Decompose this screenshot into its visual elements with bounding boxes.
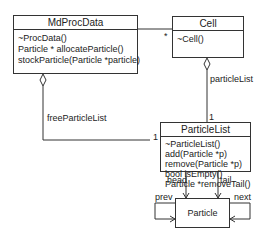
operation: add(Particle *p)	[165, 149, 246, 159]
multiplicity-one-top: 1	[209, 112, 214, 122]
role-prev: prev	[155, 192, 173, 202]
role-freeparticlelist: freeParticleList	[47, 113, 107, 123]
class-particlelist[interactable]: ParticleList ~ParticleList() add(Particl…	[160, 122, 251, 172]
operation: remove(Particle *p)	[165, 159, 246, 169]
class-cell[interactable]: Cell ~Cell()	[172, 16, 244, 58]
aggregation-diamond-icon	[204, 58, 210, 70]
class-title: Particle	[187, 208, 217, 218]
operation: ~ProcData()	[18, 33, 133, 44]
operation: ~ParticleList()	[165, 139, 246, 149]
operation: stockParticle(Particle *particle)	[18, 55, 133, 66]
multiplicity-one-left: 1	[153, 132, 158, 142]
class-particle[interactable]: Particle	[175, 198, 230, 228]
class-title: ParticleList	[161, 123, 250, 137]
class-title: Cell	[173, 17, 243, 31]
role-next: next	[234, 192, 251, 202]
multiplicity-star: *	[164, 31, 168, 41]
class-operations: ~Cell()	[173, 31, 243, 48]
role-head: head	[167, 175, 187, 185]
class-mdprocdata[interactable]: MdProcData ~ProcData() Particle * alloca…	[13, 15, 138, 74]
role-particlelist: particleList	[210, 74, 253, 84]
operation: Particle * allocateParticle()	[18, 44, 133, 55]
aggregation-diamond-icon	[40, 74, 46, 86]
role-tail: tail	[220, 175, 232, 185]
class-operations: ~ProcData() Particle * allocateParticle(…	[14, 30, 137, 69]
class-title: MdProcData	[14, 16, 137, 30]
operation: ~Cell()	[177, 34, 239, 45]
